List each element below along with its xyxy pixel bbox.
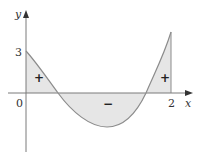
chart: y 3 0 2 x + − + <box>0 0 202 161</box>
sign-left-plus: + <box>34 71 44 85</box>
negative-region <box>58 93 146 127</box>
origin-label: 0 <box>16 97 23 110</box>
x-axis-arrow-icon <box>185 90 193 96</box>
y-tick-label-3: 3 <box>15 46 22 59</box>
x-axis-label: x <box>185 97 192 110</box>
sign-right-plus: + <box>160 71 170 85</box>
sign-middle-minus: − <box>103 97 113 111</box>
y-axis-arrow-icon <box>23 10 29 18</box>
x-tick-label-2: 2 <box>168 97 175 110</box>
y-axis-label: y <box>14 8 22 21</box>
